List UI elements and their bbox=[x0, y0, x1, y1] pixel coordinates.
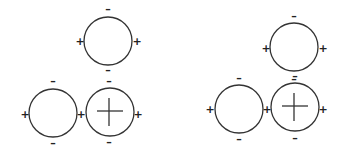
plus-sign: + bbox=[76, 108, 85, 121]
minus-sign: – bbox=[106, 136, 112, 149]
circle-shape bbox=[84, 17, 132, 65]
plus-sign: + bbox=[318, 103, 327, 116]
minus-sign: – bbox=[291, 10, 297, 23]
minus-sign: – bbox=[50, 137, 56, 150]
right-arrangement: ––++––++––+ bbox=[205, 10, 327, 146]
circle-shape bbox=[29, 89, 77, 137]
plus-sign: + bbox=[75, 35, 84, 48]
plus-sign: + bbox=[318, 42, 327, 55]
circle-bottom-right: ––+ bbox=[86, 75, 143, 149]
circle-shape bbox=[271, 83, 319, 131]
circle-bottom-left: ––++ bbox=[205, 72, 271, 146]
plus-sign: + bbox=[133, 108, 142, 121]
plus-sign: + bbox=[132, 35, 141, 48]
circle-shape bbox=[215, 85, 263, 133]
circle-top: ––++ bbox=[75, 3, 141, 77]
plus-sign: + bbox=[261, 42, 270, 55]
minus-sign: – bbox=[236, 133, 242, 146]
minus-sign: – bbox=[50, 75, 56, 88]
circle-shape bbox=[86, 88, 134, 136]
plus-sign: + bbox=[205, 103, 214, 116]
minus-sign: – bbox=[292, 132, 298, 145]
circle-bottom-left: ––++ bbox=[20, 75, 85, 150]
plus-sign: + bbox=[262, 103, 271, 116]
minus-sign: – bbox=[292, 70, 298, 83]
minus-sign: – bbox=[106, 75, 112, 88]
left-arrangement: ––++––++––+ bbox=[20, 3, 142, 150]
minus-sign: – bbox=[105, 3, 111, 16]
charge-diagram: ––++––++––+––++––++––+ bbox=[0, 0, 344, 151]
circle-shape bbox=[270, 23, 318, 71]
plus-sign: + bbox=[20, 108, 29, 121]
circle-bottom-right: ––+ bbox=[271, 70, 328, 145]
minus-sign: – bbox=[236, 72, 242, 85]
